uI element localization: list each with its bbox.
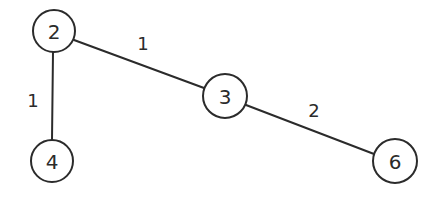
edge-weight-2-4: 1	[27, 90, 38, 111]
node-label-3: 3	[219, 85, 232, 109]
node-label-4: 4	[46, 150, 59, 174]
nodes-layer: 2 3 4 6	[31, 10, 417, 183]
node-6[interactable]: 6	[373, 139, 417, 183]
node-label-2: 2	[48, 20, 61, 44]
node-2[interactable]: 2	[33, 10, 75, 52]
edge-line-2-4	[52, 52, 53, 140]
edge-weight-3-6: 2	[308, 100, 319, 121]
node-label-6: 6	[389, 150, 402, 174]
edges-layer: 1 1 2	[27, 33, 374, 155]
edge-2-3: 1	[74, 33, 204, 89]
graph-diagram: 1 1 2 2 3 4 6	[0, 0, 434, 199]
node-4[interactable]: 4	[31, 140, 73, 182]
edge-2-4: 1	[27, 52, 53, 140]
node-3[interactable]: 3	[203, 74, 247, 118]
edge-weight-2-3: 1	[137, 33, 148, 54]
edge-3-6: 2	[246, 100, 374, 155]
